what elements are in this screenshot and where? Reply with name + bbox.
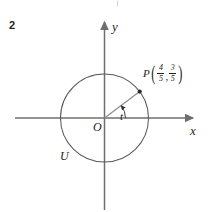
point-p-x-coordinate: 4 5 xyxy=(157,64,165,82)
x-numerator: 4 xyxy=(159,64,163,72)
origin-label: O xyxy=(93,121,102,133)
open-paren: ( xyxy=(152,64,156,83)
angle-label: t xyxy=(120,111,123,122)
figure-canvas xyxy=(0,0,211,212)
point-p-label: P ( 4 5 , 3 5 ) xyxy=(143,64,183,83)
point-p-y-coordinate: 3 5 xyxy=(169,64,177,82)
x-axis-label: x xyxy=(190,124,196,137)
y-axis-label: y xyxy=(112,20,118,33)
x-denominator: 5 xyxy=(159,75,163,83)
point-p-name: P xyxy=(143,68,150,79)
point-p-dot xyxy=(138,90,142,94)
circle-label: U xyxy=(60,150,69,162)
close-paren: ) xyxy=(178,64,182,83)
problem-number: 2 xyxy=(9,20,15,31)
y-numerator: 3 xyxy=(171,64,175,72)
unit-circle-figure: 2 y x O t U P ( 4 5 , 3 5 ) xyxy=(0,0,211,212)
y-denominator: 5 xyxy=(171,75,175,83)
